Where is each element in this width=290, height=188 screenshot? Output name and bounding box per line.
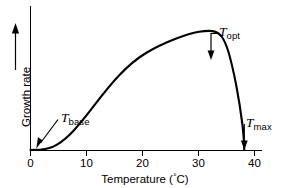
annotation-t-opt: Topt [219, 24, 240, 41]
t-base-subscript: base [69, 116, 90, 127]
x-tick-label-0: 0 [27, 158, 33, 170]
x-axis-title-text-end: C) [177, 173, 189, 185]
x-tick-label-40: 40 [248, 158, 261, 170]
annotation-t-base: Tbase [61, 110, 90, 127]
x-tick-label-30: 30 [192, 158, 205, 170]
t-base-leader-arrow [36, 120, 58, 149]
t-opt-symbol: T [219, 24, 227, 39]
t-max-subscript: max [254, 121, 272, 132]
t-opt-leader-arrow [208, 34, 218, 61]
t-opt-subscript: opt [227, 30, 241, 41]
x-axis-title: Temperature (°C) [0, 172, 290, 185]
annotation-t-max: Tmax [246, 115, 272, 132]
growth-rate-curve [31, 31, 245, 150]
y-axis-direction-arrow [12, 23, 19, 70]
y-axis-title: Growth rate [20, 67, 32, 127]
x-tick-label-10: 10 [80, 158, 93, 170]
x-axis-title-text: Temperature ( [101, 173, 173, 185]
growth-rate-temperature-figure: 0 10 20 30 40 Temperature (°C) Growth ra… [0, 0, 290, 188]
x-axis-ticks [31, 151, 255, 157]
x-tick-label-20: 20 [136, 158, 149, 170]
t-max-symbol: T [246, 115, 254, 130]
t-base-symbol: T [61, 110, 69, 125]
